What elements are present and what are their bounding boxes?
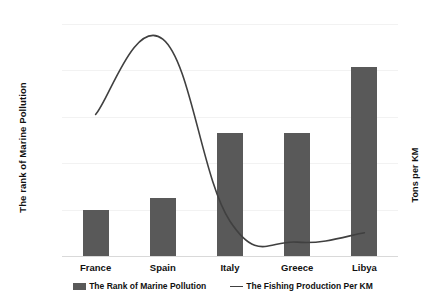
y-axis-left-title: The rank of Marine Pollution: [17, 68, 28, 228]
bar-slot-greece: [264, 24, 331, 256]
legend-label: The Fishing Production Per KM: [246, 281, 373, 291]
legend-item-line[interactable]: The Fishing Production Per KM: [230, 281, 373, 291]
x-label-spain: Spain: [129, 262, 196, 273]
x-label-italy: Italy: [196, 262, 263, 273]
bar-slot-libya: [331, 24, 398, 256]
chart-legend: The Rank of Marine PollutionThe Fishing …: [0, 281, 446, 291]
gridline-0: [62, 256, 398, 257]
bar-italy[interactable]: [217, 133, 243, 256]
bar-libya[interactable]: [351, 67, 377, 256]
bar-france[interactable]: [83, 210, 109, 256]
bar-series: [62, 24, 398, 256]
x-label-greece: Greece: [264, 262, 331, 273]
legend-item-bar[interactable]: The Rank of Marine Pollution: [73, 281, 206, 291]
y-axis-right-title: Tons per KM: [410, 120, 420, 230]
bar-spain[interactable]: [150, 198, 176, 256]
bar-slot-spain: [129, 24, 196, 256]
bar-slot-italy: [196, 24, 263, 256]
plot-area: 050100150200250 020406080100120140160180…: [62, 24, 398, 256]
x-label-libya: Libya: [331, 262, 398, 273]
bar-slot-france: [62, 24, 129, 256]
legend-label: The Rank of Marine Pollution: [89, 281, 206, 291]
bar-greece[interactable]: [284, 133, 310, 256]
line-swatch-icon: [230, 286, 243, 287]
x-label-france: France: [62, 262, 129, 273]
combo-chart: The rank of Marine Pollution Tons per KM…: [0, 0, 446, 304]
bar-swatch-icon: [73, 283, 86, 290]
